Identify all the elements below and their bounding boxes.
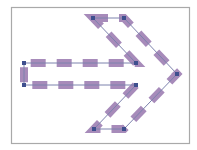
- vertex-handle-3[interactable]: [122, 127, 126, 131]
- diagram-canvas: [0, 0, 197, 150]
- vertex-handle-8[interactable]: [134, 61, 138, 65]
- vertex-handle-6[interactable]: [22, 83, 26, 87]
- vertex-handle-7[interactable]: [22, 61, 26, 65]
- vertex-handle-0[interactable]: [91, 16, 95, 20]
- vertex-handle-2[interactable]: [175, 72, 179, 76]
- vertex-handle-1[interactable]: [122, 16, 126, 20]
- vertex-handle-4[interactable]: [92, 127, 96, 131]
- frame-border: [12, 8, 190, 144]
- vertex-handle-5[interactable]: [134, 83, 138, 87]
